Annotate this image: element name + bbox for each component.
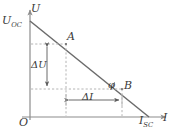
- point-a-label: A: [67, 31, 75, 42]
- uoc-subscript: OC: [11, 21, 22, 29]
- point-b-label: B: [124, 80, 132, 91]
- point-b-marker: [121, 88, 123, 90]
- uoc-symbol: U: [2, 14, 11, 27]
- short-circuit-current-label: ISC: [139, 115, 153, 129]
- origin-label: O: [19, 117, 28, 128]
- x-axis-label: I: [163, 112, 167, 123]
- isc-subscript: SC: [143, 121, 153, 129]
- point-a-marker: [65, 43, 67, 45]
- delta-u-label: ΔU: [31, 60, 47, 70]
- angle-phi-label: φ: [108, 80, 115, 90]
- iv-characteristic-figure: U UOC I ISC O A B ΔU ΔI φ: [0, 0, 174, 136]
- y-axis-label: U: [31, 3, 40, 14]
- delta-i-label: ΔI: [82, 92, 93, 102]
- open-circuit-voltage-label: UOC: [2, 15, 22, 29]
- iv-characteristic-line: [30, 21, 149, 117]
